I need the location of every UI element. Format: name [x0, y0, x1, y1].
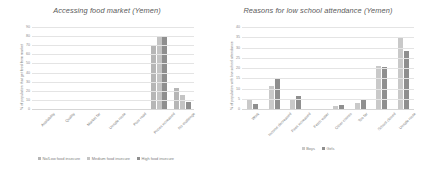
bar-groups — [242, 28, 414, 110]
x-axis-tick: Fees increased — [285, 110, 307, 144]
bar-group — [307, 28, 329, 110]
gridline: 30 — [32, 82, 194, 83]
y-axis-tick-label: 90 — [26, 25, 30, 29]
bar-group — [78, 28, 101, 110]
x-axis-tick: Unsafe route — [101, 110, 124, 144]
x-axis-tick: Other chores — [328, 110, 350, 144]
bar-group — [32, 28, 55, 110]
x-axis-tick-labels: WorkIncome decreasedFees increasedFetch … — [242, 110, 414, 144]
gridline: 60 — [32, 54, 194, 55]
bar-group — [371, 28, 393, 110]
x-axis-tick-label: Poor road — [133, 112, 148, 127]
bar-group — [393, 28, 415, 110]
x-axis-tick-label: No challenge — [178, 112, 197, 131]
legend-swatch — [38, 157, 41, 160]
y-axis-tick-label: 70 — [26, 43, 30, 47]
bar-group — [55, 28, 78, 110]
gridline: 40 — [242, 27, 414, 28]
x-axis-tick-label: Availability — [40, 112, 55, 127]
legend-label: Girls — [326, 146, 334, 151]
y-axis-tick-label: 40 — [26, 71, 30, 75]
gridline: 80 — [32, 36, 194, 37]
y-axis-tick-label: 30 — [236, 46, 240, 50]
y-axis-tick-label: 60 — [26, 52, 30, 56]
x-axis-tick: Quality — [55, 110, 78, 144]
bar-group — [125, 28, 148, 110]
x-axis-tick: Market far — [78, 110, 101, 144]
x-axis-tick: Unsafe route — [393, 110, 415, 144]
gridline: 10 — [32, 100, 194, 101]
y-axis-tick-label: 35 — [236, 35, 240, 39]
legend-label: High food insecure — [142, 156, 174, 161]
x-axis-tick-label: Quality — [64, 112, 75, 123]
x-axis-tick-label: Unsafe route — [399, 112, 417, 130]
gridline: 0 — [242, 109, 414, 110]
x-axis-tick: Work — [242, 110, 264, 144]
y-axis-tick-label: 5 — [238, 97, 240, 101]
x-axis-tick: No challenge — [171, 110, 194, 144]
plot-area: AvailabilityQualityMarket farUnsafe rout… — [32, 28, 194, 110]
legend-label: Boys — [306, 146, 315, 151]
gridline: 90 — [32, 27, 194, 28]
y-axis-label: % of population that get food from marke… — [20, 44, 24, 110]
legend-label: Medium food insecure — [92, 156, 130, 161]
y-axis-tick-label: 80 — [26, 34, 30, 38]
gridline: 35 — [242, 37, 414, 38]
x-axis-tick: Prices increased — [148, 110, 171, 144]
y-axis-tick-label: 30 — [26, 80, 30, 84]
y-axis-tick-label: 25 — [236, 56, 240, 60]
legend-swatch — [87, 157, 90, 160]
y-axis-tick-label: 20 — [26, 89, 30, 93]
gridline: 70 — [32, 45, 194, 46]
y-axis-tick-label: 0 — [238, 107, 240, 111]
x-axis-tick: Fetch water — [307, 110, 329, 144]
legend-swatch — [302, 147, 305, 150]
x-axis-tick: Poor road — [125, 110, 148, 144]
y-axis-label: % of population with low school attendan… — [230, 41, 234, 110]
x-axis-tick: School closed — [371, 110, 393, 144]
chart-reasons-low-school-attendance: Reasons for low school attendance (Yemen… — [212, 0, 424, 169]
legend-swatch — [322, 147, 325, 150]
chart-legend: BoysGirls — [212, 146, 424, 151]
legend-label: No/Low food insecure — [43, 156, 81, 161]
y-axis-tick-label: 20 — [236, 66, 240, 70]
chart-title: Reasons for low school attendance (Yemen… — [216, 6, 420, 15]
gridline: 15 — [242, 78, 414, 79]
legend-item[interactable]: No/Low food insecure — [38, 156, 80, 161]
gridline: 20 — [32, 91, 194, 92]
legend-swatch — [137, 157, 140, 160]
bar — [275, 79, 280, 110]
gridline: 40 — [32, 73, 194, 74]
y-axis-tick-label: 15 — [236, 76, 240, 80]
bar — [180, 95, 185, 110]
gridline: 30 — [242, 48, 414, 49]
bar-group — [350, 28, 372, 110]
legend-item[interactable]: Medium food insecure — [87, 156, 130, 161]
x-axis-tick-label: Work — [251, 112, 260, 121]
bar-group — [171, 28, 194, 110]
plot-area: WorkIncome decreasedFees increasedFetch … — [242, 28, 414, 110]
y-axis-tick-label: 0 — [28, 107, 30, 111]
gridline: 0 — [32, 109, 194, 110]
bar-group — [242, 28, 264, 110]
gridline: 50 — [32, 63, 194, 64]
legend-item[interactable]: High food insecure — [137, 156, 174, 161]
gridline: 20 — [242, 68, 414, 69]
bar-group — [285, 28, 307, 110]
x-axis-tick-label: Too far — [358, 112, 369, 123]
gridline: 5 — [242, 99, 414, 100]
legend-item[interactable]: Girls — [322, 146, 335, 151]
x-axis-tick: Income decreased — [264, 110, 286, 144]
y-axis-tick-label: 10 — [26, 98, 30, 102]
chart-title: Accessing food market (Yemen) — [8, 6, 206, 15]
y-axis-tick-label: 40 — [236, 25, 240, 29]
bar-group — [328, 28, 350, 110]
gridline: 10 — [242, 89, 414, 90]
bar-group — [264, 28, 286, 110]
legend-item[interactable]: Boys — [302, 146, 315, 151]
x-axis-tick: Too far — [350, 110, 372, 144]
bar-group — [148, 28, 171, 110]
bar-groups — [32, 28, 194, 110]
y-axis-tick-label: 50 — [26, 61, 30, 65]
chart-accessing-food-market: Accessing food market (Yemen) % of popul… — [0, 0, 212, 169]
